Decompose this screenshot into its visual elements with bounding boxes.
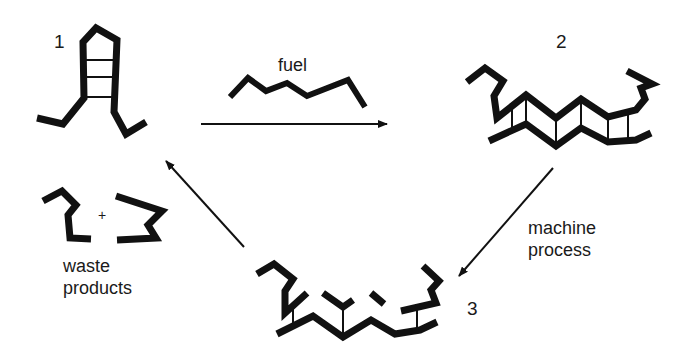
- fuel-strand: [230, 78, 365, 107]
- waste-label-line2: products: [63, 278, 132, 299]
- machine-process-label-line2: process: [528, 240, 591, 261]
- duplex-structure-3: [257, 264, 439, 337]
- machine-process-label-line1: machine: [528, 218, 596, 239]
- state-1-label: 1: [54, 31, 65, 53]
- waste-label-line1: waste: [63, 256, 110, 277]
- plus-sign: +: [98, 207, 106, 223]
- fuel-cycle-diagram: 1 2 3 fuel machine process + waste produ…: [0, 0, 684, 350]
- state-3-label: 3: [467, 298, 478, 320]
- state-2-label: 2: [556, 31, 567, 53]
- duplex-structure-2: [467, 68, 652, 146]
- arrow-3-to-1: [166, 161, 244, 247]
- fuel-label: fuel: [278, 55, 307, 76]
